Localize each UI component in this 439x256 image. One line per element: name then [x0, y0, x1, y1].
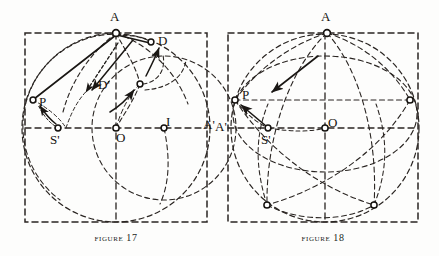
figure-18-label-a-prime: A'	[215, 120, 227, 133]
figure-18-arc-right-to-bottomleft	[267, 100, 410, 205]
figure-17-label-a: A	[110, 10, 119, 23]
figure-17-caption: Figure17	[25, 232, 207, 243]
figure-18-caption-word: Figure	[301, 232, 330, 243]
figure-18-marker-a	[324, 30, 331, 37]
figure-18-arrow-s-to-p	[241, 105, 266, 126]
figure-17-label-p: P	[39, 95, 46, 108]
figure-17-label-d: D	[158, 34, 167, 47]
figure-18-arc-inner-right	[374, 104, 385, 205]
figure-18-marker-right	[407, 97, 413, 103]
figure-18-marker-bottom-right	[371, 202, 377, 208]
figure-18-arrow-a-inward	[272, 56, 318, 92]
figure-18-arc-s-to-o	[268, 128, 325, 131]
figure-18-marker-bottom-left	[264, 202, 270, 208]
figure-18-caption: Figure18	[228, 232, 418, 243]
figure-17-label-a-prime: A'	[203, 118, 215, 131]
figure-18-label-p: P	[242, 88, 249, 101]
figure-18-arc-a-to-bottomleft	[267, 33, 327, 205]
figure-18-label-s-prime: S'	[261, 133, 271, 146]
figure-18-label-a: A	[321, 10, 330, 23]
figure-17-caption-number: 17	[126, 232, 137, 243]
figure-18-label-o: O	[328, 116, 337, 129]
figure-17-caption-word: Figure	[94, 232, 123, 243]
figure-17-label-d-prime: D'	[98, 78, 110, 91]
figure-17-label-s-prime: S'	[50, 133, 60, 146]
figure-plate: A D D' P S' O I A' A P S' O A' Figure17 …	[0, 0, 439, 256]
figure-18-marker-s-prime	[265, 125, 271, 131]
figure-18-marker-p	[232, 97, 238, 103]
figure-17-label-i: I	[166, 115, 170, 128]
figure-17-label-o: O	[116, 131, 125, 144]
figure-18-caption-number: 18	[333, 232, 344, 243]
figure-18-arc-a-to-right	[327, 33, 410, 100]
